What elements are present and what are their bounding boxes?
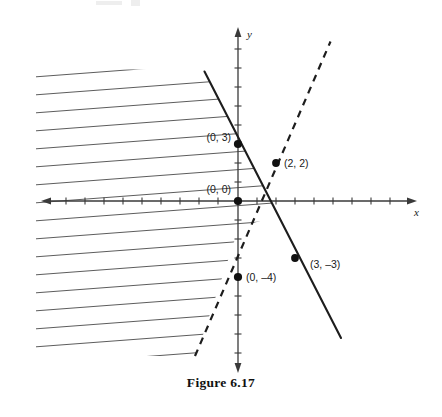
point-0-3 [234, 140, 242, 148]
scan-artifact [131, 0, 140, 6]
scan-artifact [96, 1, 122, 5]
point-label-2-2: (2, 2) [284, 157, 309, 169]
point-label-3-neg3: (3, –3) [310, 258, 340, 270]
point-0-neg4 [234, 273, 242, 281]
point-0-0 [234, 197, 242, 205]
shaded-region-hatching [20, 48, 420, 384]
y-axis-label: y [246, 28, 252, 40]
point-label-0-3: (0, 3) [206, 131, 231, 143]
point-3-neg3 [291, 254, 299, 262]
point-label-0-neg4: (0, –4) [246, 271, 276, 283]
point-2-2 [272, 159, 280, 167]
figure-graph: (0, 3) (0, 0) (0, –4) (2, 2) (3, –3) y x [0, 0, 442, 417]
dashed-boundary-line [195, 42, 331, 357]
point-label-0-0: (0, 0) [206, 183, 231, 195]
coordinate-plane-svg: (0, 3) (0, 0) (0, –4) (2, 2) (3, –3) y x [0, 0, 442, 417]
x-axis-label: x [413, 206, 419, 218]
solid-boundary-line [205, 72, 342, 339]
figure-caption: Figure 6.17 [0, 375, 442, 391]
